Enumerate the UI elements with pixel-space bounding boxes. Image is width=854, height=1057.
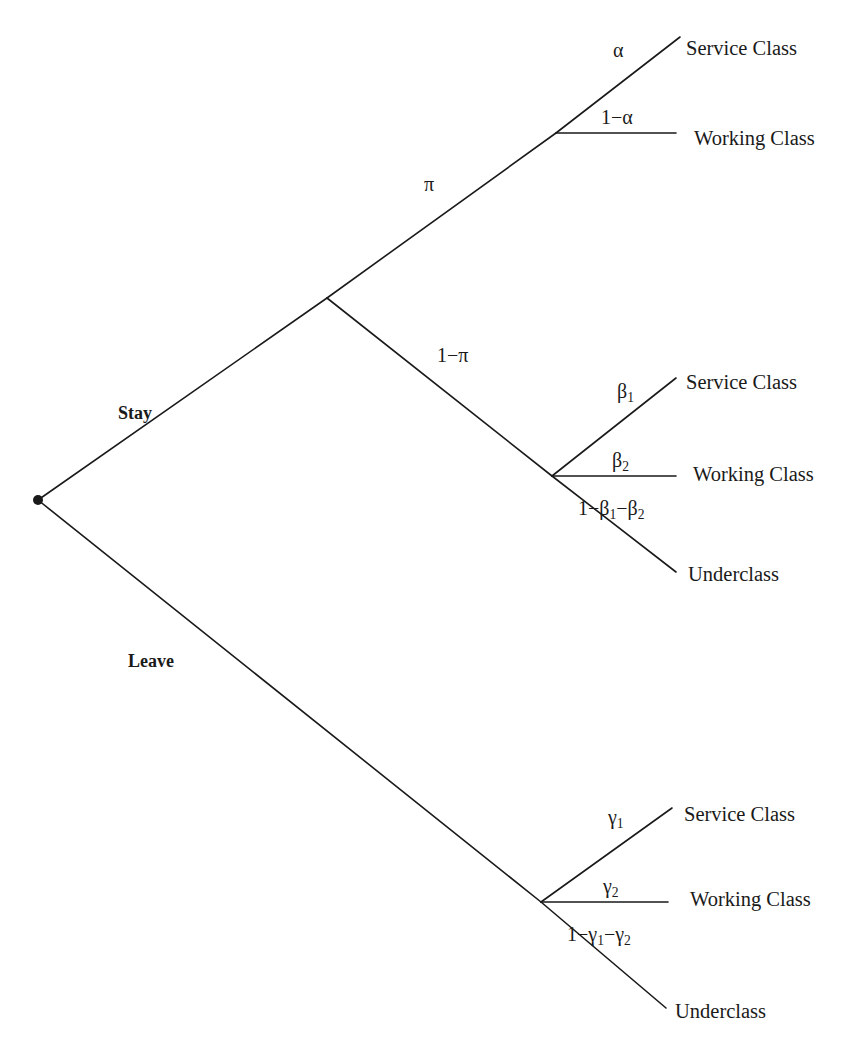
root-node-dot [33, 495, 43, 505]
prob-label-beta1: β1 [617, 381, 634, 401]
prob-label-gamma1-base: γ [608, 806, 617, 828]
prob-label-beta1-base: β [617, 380, 627, 402]
edge-leave [38, 500, 541, 902]
prob-label-beta2-sub: 2 [622, 459, 629, 474]
outcome-label-stay-stay-working: Working Class [694, 128, 815, 149]
edge-one-pi [327, 298, 552, 476]
outcome-label-stay-stay-service: Service Class [686, 38, 797, 59]
prob-beta-part2: −β [616, 497, 637, 519]
outcome-label-stay-move-service: Service Class [686, 372, 797, 393]
prob-beta-part1: 1−β [578, 497, 609, 519]
prob-label-gamma2-base: γ [603, 875, 612, 897]
outcome-label-stay-move-underclass: Underclass [688, 564, 779, 585]
prob-label-pi: π [424, 174, 434, 194]
prob-label-one-minus-alpha: 1−α [601, 107, 633, 127]
prob-gamma-sub1: 1 [597, 933, 604, 948]
prob-label-one-minus-beta1-beta2: 1−β1−β2 [578, 498, 645, 518]
outcome-label-leave-underclass: Underclass [675, 1001, 766, 1022]
outcome-label-leave-working: Working Class [690, 889, 811, 910]
edge-pi [327, 133, 556, 298]
edge-one-beta [552, 476, 676, 572]
outcome-label-stay-move-working: Working Class [693, 464, 814, 485]
prob-label-one-minus-gamma1-gamma2: 1−γ1−γ2 [567, 924, 631, 944]
prob-label-beta2: β2 [612, 450, 629, 470]
edge-stay [38, 298, 327, 500]
decision-label-stay: Stay [118, 404, 152, 422]
prob-label-alpha: α [613, 40, 623, 60]
prob-label-gamma1: γ1 [608, 807, 624, 827]
edge-one-gamma [541, 902, 666, 1008]
prob-gamma-part2: −γ [604, 923, 624, 945]
decision-tree-diagram: Stay Leave π 1−π α 1−α β1 β2 1−β1−β2 γ1 … [0, 0, 854, 1057]
decision-label-leave: Leave [128, 652, 174, 670]
prob-label-beta1-sub: 1 [627, 390, 634, 405]
prob-label-one-minus-pi: 1−π [437, 345, 468, 365]
prob-label-gamma1-sub: 1 [617, 816, 624, 831]
prob-gamma-sub2: 2 [624, 933, 631, 948]
prob-label-gamma2: γ2 [603, 876, 619, 896]
prob-gamma-part1: 1−γ [567, 923, 597, 945]
prob-beta-sub2: 2 [638, 507, 645, 522]
outcome-label-leave-service: Service Class [684, 804, 795, 825]
prob-label-beta2-base: β [612, 449, 622, 471]
prob-label-gamma2-sub: 2 [612, 885, 619, 900]
